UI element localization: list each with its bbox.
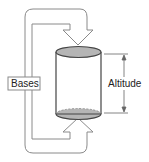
bottom-base (56, 114, 101, 120)
bases-label: Bases (11, 78, 39, 90)
cylinder-diagram: Bases Altitude (0, 0, 149, 162)
top-base (56, 47, 101, 58)
cylinder-body (56, 52, 101, 114)
altitude-label: Altitude (108, 78, 141, 90)
